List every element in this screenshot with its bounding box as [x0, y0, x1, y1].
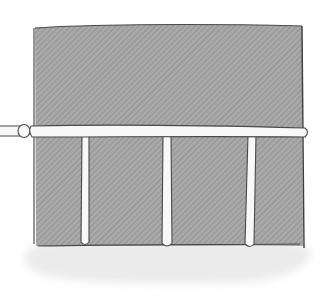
horizontal-rod — [0, 125, 308, 138]
sketch-illustration — [0, 0, 332, 299]
pole-2 — [162, 135, 172, 246]
pole-1 — [81, 135, 89, 245]
panel-rod-drawing — [0, 0, 332, 299]
